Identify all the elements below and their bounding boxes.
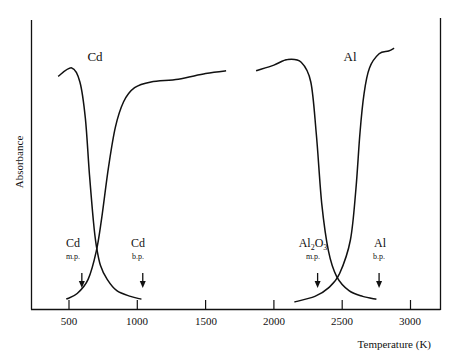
tick-label-3000: 3000 <box>399 315 421 327</box>
absorbance-temperature-chart: Cd Al Absorbance Temperature (K) 500 100… <box>0 0 453 362</box>
annotation-al2o3-mp-sub: m.p. <box>306 252 320 261</box>
tick-label-500: 500 <box>61 315 78 327</box>
tick-label-2500: 2500 <box>331 315 353 327</box>
annotation-al-bp-sub: b.p. <box>373 252 385 261</box>
al2o3-al: Al <box>299 236 311 250</box>
x-axis-label: Temperature (K) <box>358 338 431 350</box>
tick-label-2000: 2000 <box>263 315 285 327</box>
y-axis-label: Absorbance <box>13 136 25 189</box>
annotation-al-bp-label: Al <box>374 236 386 251</box>
annotation-cd-bp-sub: b.p. <box>132 252 144 261</box>
annotation-cd-mp-label: Cd <box>66 236 80 251</box>
panel-title-cd: Cd <box>87 49 102 65</box>
annotation-al2o3-mp-label: Al2O3 <box>299 236 328 252</box>
curve-al-increasing <box>294 48 394 302</box>
down-arrow-icon <box>315 273 321 288</box>
tick-label-1000: 1000 <box>126 315 148 327</box>
al2o3-o: O <box>315 236 324 250</box>
annotation-cd-bp-label: Cd <box>131 236 145 251</box>
panel-title-al: Al <box>344 49 357 65</box>
tick-label-1500: 1500 <box>195 315 217 327</box>
curve-al-decreasing <box>256 59 376 299</box>
curve-cd-decreasing <box>58 68 141 299</box>
annotation-cd-mp-sub: m.p. <box>66 252 80 261</box>
plot-area <box>0 0 453 362</box>
down-arrow-icon <box>376 273 382 288</box>
x-ticks <box>69 300 411 310</box>
al2o3-sub-3: 3 <box>323 243 327 252</box>
down-arrow-icon <box>140 273 146 288</box>
curves <box>58 48 394 302</box>
